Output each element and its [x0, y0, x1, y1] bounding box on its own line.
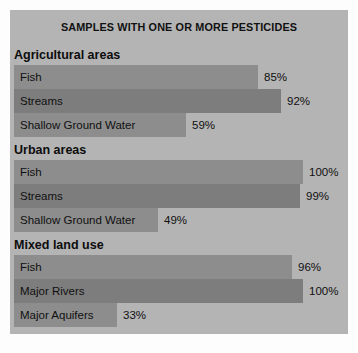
bar-value-label: 100%	[309, 160, 338, 184]
bar-category-label: Shallow Ground Water	[20, 208, 135, 232]
bar-category-label: Streams	[20, 184, 63, 208]
chart-panel: SAMPLES WITH ONE OR MORE PESTICIDES Agri…	[10, 10, 348, 334]
bar-fill	[14, 255, 292, 279]
bar-category-label: Shallow Ground Water	[20, 113, 135, 137]
figure-canvas: SAMPLES WITH ONE OR MORE PESTICIDES Agri…	[0, 0, 358, 353]
bar-category-label: Fish	[20, 160, 42, 184]
bar-value-label: 85%	[264, 65, 287, 89]
bar-value-label: 100%	[309, 279, 338, 303]
bar-category-label: Streams	[20, 89, 63, 113]
group-header-mixed-land-use: Mixed land use	[14, 236, 104, 255]
bar-value-label: 92%	[287, 89, 310, 113]
bar-category-label: Major Aquifers	[20, 303, 94, 327]
bar-category-label: Fish	[20, 65, 42, 89]
page-title: SAMPLES WITH ONE OR MORE PESTICIDES	[20, 21, 338, 33]
group-header-agricultural-areas: Agricultural areas	[14, 46, 120, 65]
bar-value-label: 59%	[192, 113, 215, 137]
bar-category-label: Fish	[20, 255, 42, 279]
bar-fill	[14, 65, 258, 89]
bar-value-label: 49%	[164, 208, 187, 232]
group-header-urban-areas: Urban areas	[14, 141, 86, 160]
bar-value-label: 99%	[306, 184, 329, 208]
bar-value-label: 96%	[298, 255, 321, 279]
bar-category-label: Major Rivers	[20, 279, 85, 303]
bar-value-label: 33%	[123, 303, 146, 327]
bar-fill	[14, 160, 303, 184]
